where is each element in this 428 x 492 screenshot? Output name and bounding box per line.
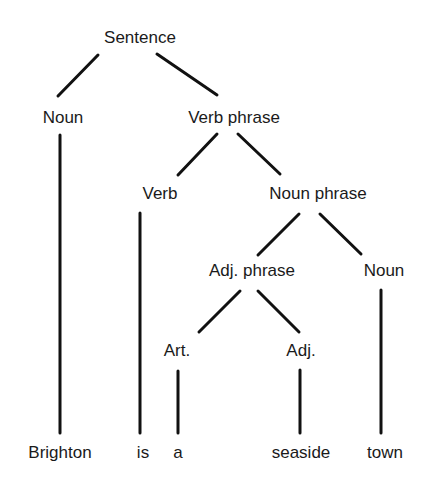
edge-s-n1 — [58, 55, 98, 96]
node-w3: a — [173, 443, 182, 463]
edge-s-vp — [157, 54, 217, 95]
node-n1: Noun — [43, 108, 84, 128]
node-w4: seaside — [272, 443, 331, 463]
edge-vp-np — [238, 134, 280, 174]
edge-np-adjp — [258, 214, 299, 255]
node-vp: Verb phrase — [188, 108, 280, 128]
edge-vp-v — [178, 134, 217, 175]
node-w5: town — [367, 443, 403, 463]
node-adj: Adj. — [286, 341, 315, 361]
node-v: Verb — [143, 184, 178, 204]
node-w1: Brighton — [28, 443, 91, 463]
tree-edges — [0, 0, 428, 492]
node-n2: Noun — [364, 261, 405, 281]
node-np: Noun phrase — [269, 184, 366, 204]
edge-adjp-art — [199, 291, 240, 332]
node-w2: is — [137, 443, 149, 463]
edge-adjp-adj — [258, 291, 299, 332]
edge-np-n2 — [320, 214, 361, 254]
node-s: Sentence — [104, 28, 176, 48]
node-art: Art. — [164, 341, 190, 361]
node-adjp: Adj. phrase — [209, 261, 295, 281]
